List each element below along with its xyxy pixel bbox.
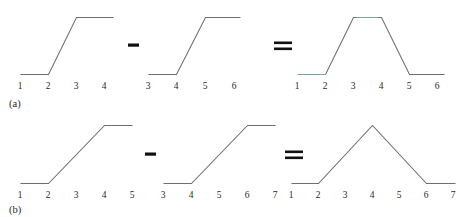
tick-label: 4 <box>174 81 179 91</box>
plot-b-result: 1 2 3 4 5 6 7 <box>289 126 456 201</box>
tick-label: 2 <box>46 190 51 200</box>
curve-b-operand-right <box>164 126 276 184</box>
minus-icon <box>145 153 156 156</box>
tick-label: 2 <box>323 81 328 91</box>
equals-icon-bar-bottom <box>285 157 303 160</box>
tick-label: 1 <box>18 190 23 200</box>
tick-label: 4 <box>102 81 107 91</box>
figure-root: 1 2 3 4 3 4 5 6 <box>0 0 476 216</box>
plot-a-result: 1 2 3 4 5 6 <box>295 18 445 92</box>
tick-label: 4 <box>189 190 194 200</box>
tick-label: 7 <box>451 190 456 200</box>
operator-minus-row-a <box>128 44 139 47</box>
tick-label: 4 <box>102 190 107 200</box>
plot-b-operand-left: 1 2 3 4 5 <box>18 126 135 201</box>
tick-label: 3 <box>351 81 356 91</box>
curve-b-operand-left <box>21 126 133 184</box>
tick-label: 3 <box>74 81 79 91</box>
tick-label: 6 <box>424 190 429 200</box>
plot-a-operand-left: 1 2 3 4 <box>18 18 114 92</box>
curve-a-operand-right <box>149 18 241 75</box>
operator-minus-row-b <box>145 153 156 156</box>
curve-b-result <box>292 126 456 184</box>
tick-label: 5 <box>203 81 208 91</box>
tick-label: 5 <box>130 190 135 200</box>
tick-label: 5 <box>397 190 402 200</box>
tick-label: 4 <box>370 190 375 200</box>
tick-label: 2 <box>46 81 51 91</box>
tick-label: 1 <box>289 190 294 200</box>
tick-label: 6 <box>435 81 440 91</box>
tick-label: 6 <box>232 81 237 91</box>
plot-b-operand-right: 3 4 5 6 7 <box>161 126 278 201</box>
tick-label: 2 <box>316 190 321 200</box>
panel-caption-b: (b) <box>9 204 22 216</box>
tick-label: 7 <box>273 190 278 200</box>
tick-label: 6 <box>245 190 250 200</box>
tick-label: 5 <box>407 81 412 91</box>
tick-label: 3 <box>74 190 79 200</box>
operator-equals-row-a <box>274 42 292 51</box>
curve-a-operand-left <box>21 18 114 75</box>
tick-label: 3 <box>161 190 166 200</box>
tick-label: 1 <box>18 81 23 91</box>
row-a: 1 2 3 4 3 4 5 6 <box>9 18 445 111</box>
row-b: 1 2 3 4 5 3 4 5 6 7 <box>9 126 456 217</box>
tick-label: 4 <box>379 81 384 91</box>
equals-icon-bar-top <box>274 42 292 45</box>
equals-icon-bar-top <box>285 151 303 154</box>
tick-label: 3 <box>343 190 348 200</box>
operator-equals-row-b <box>285 151 303 160</box>
minus-icon <box>128 44 139 47</box>
tick-label: 3 <box>146 81 151 91</box>
curve-a-result <box>326 18 445 75</box>
tick-label: 5 <box>217 190 222 200</box>
equals-icon-bar-bottom <box>274 48 292 51</box>
figure-canvas: 1 2 3 4 3 4 5 6 <box>0 0 476 216</box>
plot-a-operand-right: 3 4 5 6 <box>146 18 241 92</box>
panel-caption-a: (a) <box>9 98 21 110</box>
tick-label: 1 <box>295 81 300 91</box>
